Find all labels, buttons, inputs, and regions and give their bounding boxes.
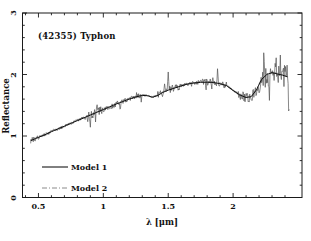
model2-curve [31, 72, 288, 140]
chart-title: (42355) Typhon [38, 31, 116, 41]
y-tick-label: 1 [8, 128, 18, 144]
legend-label-model2: Model 2 [71, 183, 107, 193]
legend-label-model1: Model 1 [71, 162, 107, 172]
observed-spectrum-curve [31, 53, 289, 144]
legend-line-samples [42, 167, 68, 188]
x-tick-label: 1.5 [153, 201, 183, 211]
x-tick-label: 1 [88, 201, 118, 211]
y-tick-label: 0 [8, 190, 18, 206]
x-tick-label: 2 [218, 201, 248, 211]
spectrum-figure: (42355) Typhon λ [μm] Reflectance Model … [0, 0, 311, 241]
model1-curve [31, 73, 288, 141]
x-tick-label: 0.5 [23, 201, 53, 211]
y-tick-label: 3 [8, 5, 18, 21]
y-tick-label: 2 [8, 67, 18, 83]
x-axis-label: λ [μm] [0, 217, 311, 227]
